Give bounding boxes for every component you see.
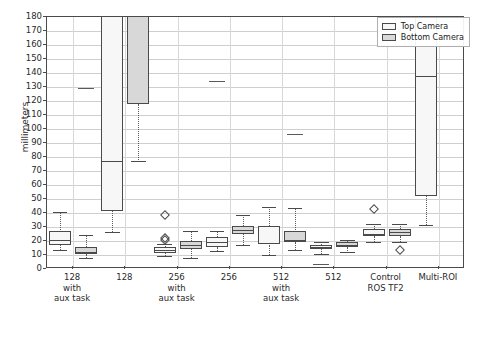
boxplot-cap-upper xyxy=(340,240,355,241)
boxplot-cap-lower xyxy=(53,250,68,251)
boxplot-median xyxy=(75,252,97,253)
y-tick-label: 120 xyxy=(26,96,42,105)
boxplot-cap-upper xyxy=(236,215,251,216)
y-tick-label: 80 xyxy=(31,152,42,161)
y-tick-mark xyxy=(43,268,46,269)
x-tick-mark xyxy=(229,266,230,269)
boxplot-box xyxy=(127,16,149,104)
y-tick-label: 170 xyxy=(26,26,42,35)
y-tick-label: 150 xyxy=(26,54,42,63)
y-tick-label: 50 xyxy=(31,194,42,203)
boxplot-median xyxy=(310,247,332,248)
boxplot-whisker-upper xyxy=(269,207,271,226)
y-tick-label: 160 xyxy=(26,40,42,49)
legend-swatch-top-camera xyxy=(382,23,396,30)
boxplot-cap-lower xyxy=(419,225,434,226)
boxplot-cap-lower xyxy=(288,250,303,251)
boxplot-median xyxy=(101,161,123,162)
boxplot-median xyxy=(284,240,306,241)
x-tick-mark xyxy=(72,266,73,269)
legend-item-bottom-camera: Bottom Camera xyxy=(382,32,464,43)
boxplot-whisker-lower xyxy=(243,234,245,245)
boxplot-flier xyxy=(160,210,170,220)
boxplot-cap-upper xyxy=(183,231,198,232)
boxplot-whisker-upper xyxy=(295,208,297,230)
boxplot-median xyxy=(363,234,385,235)
y-tick-label: 90 xyxy=(31,138,42,147)
x-tick-mark xyxy=(177,266,178,269)
boxplot-median xyxy=(336,245,358,246)
y-tick-label: 70 xyxy=(31,166,42,175)
boxplot-cap-lower xyxy=(236,245,251,246)
boxplot-flier xyxy=(313,264,329,265)
boxplot-whisker-lower xyxy=(191,249,193,257)
axes-frame xyxy=(46,16,464,268)
boxplot-flier xyxy=(78,88,94,89)
legend-label-top-camera: Top Camera xyxy=(401,21,448,32)
boxplot-cap-lower xyxy=(366,242,381,243)
boxplot-cap-upper xyxy=(262,207,277,208)
boxplot-whisker-lower xyxy=(138,104,140,161)
boxplot-cap-upper xyxy=(314,242,329,243)
y-tick-label: 130 xyxy=(26,82,42,91)
gridline-horizontal xyxy=(47,255,463,256)
x-tick-label: Multi-ROI xyxy=(406,272,470,283)
legend-item-top-camera: Top Camera xyxy=(382,21,464,32)
gridline-vertical xyxy=(387,17,388,267)
y-tick-label: 110 xyxy=(26,110,42,119)
gridline-horizontal xyxy=(47,213,463,214)
x-tick-mark xyxy=(438,266,439,269)
boxplot-median xyxy=(180,245,202,246)
y-tick-label: 0 xyxy=(37,264,42,273)
boxplot-cap-upper xyxy=(53,212,68,213)
boxplot-whisker-upper xyxy=(60,212,62,231)
y-axis-tick-labels: 0102030405060708090100110120130140150160… xyxy=(18,16,42,268)
boxplot-median xyxy=(232,230,254,231)
gridline-vertical xyxy=(439,17,440,267)
boxplot-cap-upper xyxy=(210,231,225,232)
boxplot-cap-upper xyxy=(366,224,381,225)
chart-legend: Top Camera Bottom Camera xyxy=(377,17,470,47)
boxplot-cap-lower xyxy=(105,232,120,233)
y-tick-label: 10 xyxy=(31,250,42,259)
boxplot-median xyxy=(206,242,228,243)
boxplot-cap-upper xyxy=(288,208,303,209)
boxplot-flier xyxy=(209,81,225,82)
plot-area xyxy=(46,16,464,268)
boxplot-cap-lower xyxy=(210,251,225,252)
y-tick-label: 100 xyxy=(26,124,42,133)
x-tick-mark xyxy=(124,266,125,269)
boxplot-median xyxy=(49,240,71,241)
boxplot-box xyxy=(49,231,71,246)
boxplot-whisker-lower xyxy=(269,245,271,256)
gridline-vertical xyxy=(282,17,283,267)
y-tick-label: 30 xyxy=(31,222,42,231)
boxplot-cap-lower xyxy=(157,256,172,257)
boxplot-box xyxy=(258,226,280,245)
boxplot-cap-lower xyxy=(314,254,329,255)
boxplot-whisker-lower xyxy=(112,211,114,232)
gridline-vertical xyxy=(334,17,335,267)
boxplot-cap-upper xyxy=(79,235,94,236)
boxplot-cap-lower xyxy=(262,255,277,256)
boxplot-whisker-upper xyxy=(191,231,193,241)
boxplot-cap-lower xyxy=(183,258,198,259)
boxplot-box xyxy=(101,16,123,211)
boxplot-whisker-upper xyxy=(243,215,245,226)
boxplot-cap-lower xyxy=(392,242,407,243)
y-tick-label: 20 xyxy=(31,236,42,245)
boxplot-whisker-lower xyxy=(295,242,297,250)
boxplot-box xyxy=(363,229,385,236)
boxplot-median xyxy=(154,250,176,251)
boxplot-cap-upper xyxy=(392,224,407,225)
y-tick-label: 140 xyxy=(26,68,42,77)
boxplot-whisker-lower xyxy=(426,196,428,225)
boxplot-whisker-upper xyxy=(86,235,88,247)
x-axis-tick-labels: 128 with aux task128256 with aux task256… xyxy=(46,270,464,340)
boxplot-flier xyxy=(395,245,405,255)
y-tick-label: 180 xyxy=(26,12,42,21)
boxplot-median xyxy=(389,232,411,233)
boxplot-median xyxy=(258,243,280,244)
boxplot-cap-lower xyxy=(79,258,94,259)
gridline-vertical xyxy=(125,17,126,267)
